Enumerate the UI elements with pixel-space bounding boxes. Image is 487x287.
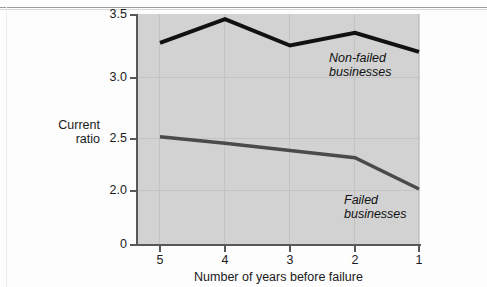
x-tick-label: 3: [275, 254, 305, 267]
series-label-failed: Failed businesses: [344, 193, 407, 222]
gridline-vertical: [224, 14, 225, 245]
chart-figure: 3.5 3.0 2.5 2.0 0 5 4 3 2 1 Number of ye…: [0, 0, 487, 287]
gridline-horizontal: [137, 138, 420, 139]
series-label-non-failed: Non-failed businesses: [329, 51, 392, 80]
x-tick-mark: [418, 246, 420, 252]
y-tick-mark: [130, 138, 137, 140]
gridline-horizontal: [137, 190, 420, 191]
x-tick-label: 5: [145, 254, 175, 267]
y-tick-mark: [130, 244, 137, 246]
y-axis-title-line1: Current: [44, 118, 100, 132]
series-label-non-failed-line1: Non-failed: [329, 51, 392, 65]
y-tick-label: 2.5: [110, 132, 127, 145]
y-axis-spine: [136, 14, 138, 246]
x-tick-label: 4: [210, 254, 240, 267]
gridline-vertical: [289, 14, 290, 245]
x-tick-mark: [289, 246, 291, 252]
series-label-failed-line2: businesses: [344, 207, 407, 221]
series-label-failed-line1: Failed: [344, 193, 407, 207]
x-tick-mark: [224, 246, 226, 252]
x-tick-label: 2: [340, 254, 370, 267]
gridline-vertical: [418, 14, 419, 245]
y-tick-label: 3.0: [110, 71, 127, 84]
x-tick-mark: [159, 246, 161, 252]
figure-top-rule: [0, 7, 487, 8]
x-axis-title: Number of years before failure: [137, 271, 420, 284]
y-axis-title-line2: ratio: [44, 132, 100, 146]
figure-top-rule-shadow: [0, 9, 487, 10]
x-tick-mark: [354, 246, 356, 252]
y-axis-title: Current ratio: [44, 118, 100, 147]
y-tick-label: 2.0: [110, 184, 127, 197]
x-tick-label: 1: [404, 254, 434, 267]
y-tick-label: 0: [120, 238, 127, 251]
series-label-non-failed-line2: businesses: [329, 65, 392, 79]
y-tick-mark: [130, 14, 137, 16]
y-tick-mark: [130, 190, 137, 192]
gridline-vertical: [159, 14, 160, 245]
figure-left-rule: [6, 7, 7, 287]
x-axis-spine: [136, 244, 421, 246]
y-tick-mark: [130, 77, 137, 79]
y-tick-label: 3.5: [110, 8, 127, 21]
